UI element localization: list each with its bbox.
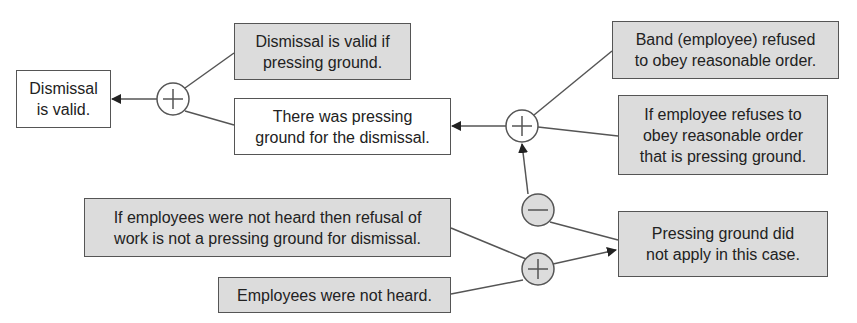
link-minus-not-apply: [550, 222, 618, 240]
node-not-apply: Pressing ground did not apply in this ca…: [618, 211, 828, 277]
node-rule-not-heard: If employees were not heard then refusal…: [84, 198, 451, 257]
link-band-refused: [534, 51, 612, 115]
node-not-heard: Employees were not heard.: [218, 277, 451, 313]
minus-connector: [522, 194, 554, 226]
arrow-plus3-to-not-apply: [553, 250, 616, 264]
node-band-refused: Band (employee) refused to obey reasonab…: [612, 21, 839, 79]
link-not-heard: [451, 280, 523, 294]
plus-connector-2: [506, 110, 538, 142]
argument-diagram: Dismissal is valid. Dismissal is valid i…: [0, 0, 857, 323]
link-rule-valid: [185, 53, 234, 88]
node-conclusion: Dismissal is valid.: [16, 70, 111, 128]
node-pressing-ground: There was pressing ground for the dismis…: [234, 98, 451, 155]
link-rule-refuse: [538, 127, 618, 136]
link-rule-not-heard: [451, 228, 526, 259]
node-rule-valid: Dismissal is valid if pressing ground.: [234, 23, 411, 80]
plus-connector-1: [157, 83, 189, 115]
plus-connector-3: [522, 253, 554, 285]
link-pressing-ground: [185, 111, 234, 125]
node-rule-refuse: If employee refuses to obey reasonable o…: [618, 95, 828, 175]
arrow-minus-to-plus2: [522, 144, 528, 194]
